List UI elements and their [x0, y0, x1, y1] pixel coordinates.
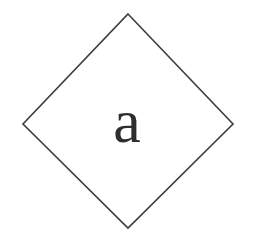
- diamond-monogram-logo: a: [0, 0, 259, 252]
- monogram-letter-a: a: [113, 87, 141, 155]
- logo-canvas: a: [0, 0, 259, 252]
